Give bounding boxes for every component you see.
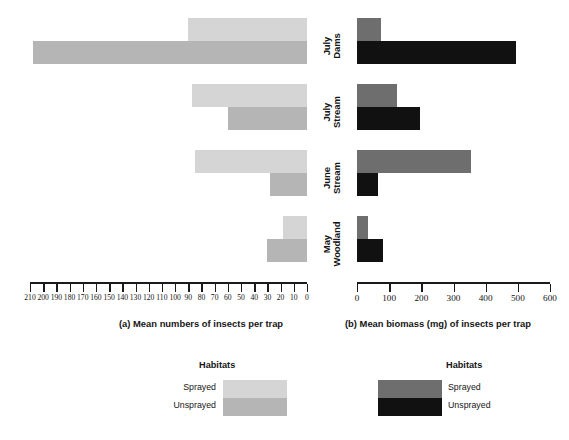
axis-tick-label: 140 — [117, 293, 128, 302]
axis-tick — [109, 284, 110, 292]
axis-tick-label: 0 — [305, 293, 309, 302]
category-axis-labels: July Dams July Stream June Stream May Wo… — [307, 10, 357, 272]
bar-panel-a-july-dams-unsprayed — [33, 41, 307, 64]
axis-tick — [136, 284, 137, 292]
category-label-june-stream: June Stream — [307, 150, 357, 206]
x-axis-panel-b: 0100200300400500600 — [357, 282, 550, 306]
axis-tick — [454, 284, 455, 292]
bar-panel-a-july-stream-unsprayed — [228, 107, 307, 130]
axis-tick-label: 150 — [103, 293, 114, 302]
axis-tick-label: 90 — [184, 293, 192, 302]
axis-tick — [518, 284, 519, 292]
axis-tick — [357, 284, 358, 292]
axis-tick — [486, 284, 487, 292]
bar-panel-a-may-woodland-sprayed — [283, 216, 307, 239]
plot-area-panel-b — [357, 10, 550, 272]
bar-panel-a-june-stream-unsprayed — [270, 173, 307, 196]
caption-panel-a: (a) Mean numbers of insects per trap — [119, 318, 283, 329]
axis-tick-label: 80 — [198, 293, 206, 302]
axis-tick-label: 200 — [37, 293, 48, 302]
bar-panel-b-july-stream-unsprayed — [357, 107, 420, 130]
axis-tick — [149, 284, 150, 292]
axis-tick-label: 500 — [511, 293, 525, 303]
axis-tick-label: 40 — [250, 293, 258, 302]
axis-tick-label: 10 — [290, 293, 298, 302]
plot-area-panel-a — [30, 10, 307, 272]
axis-tick — [162, 284, 163, 292]
axis-tick-label: 180 — [64, 293, 75, 302]
category-label-july-dams: July Dams — [307, 18, 357, 74]
axis-tick-label: 100 — [169, 293, 180, 302]
axis-tick-label: 600 — [543, 293, 557, 303]
axis-tick — [215, 284, 216, 292]
category-label-line-2: Woodland — [331, 222, 342, 267]
axis-tick — [30, 284, 31, 292]
axis-tick-label: 170 — [77, 293, 88, 302]
axis-tick — [254, 284, 255, 292]
axis-tick — [56, 284, 57, 292]
bar-panel-a-may-woodland-unsprayed — [267, 239, 307, 262]
legend-swatches — [378, 380, 442, 416]
bar-panel-b-may-woodland-sprayed — [357, 216, 368, 239]
axis-tick — [307, 284, 308, 292]
bar-panel-a-july-dams-sprayed — [188, 18, 307, 41]
category-label-july-stream: July Stream — [307, 84, 357, 140]
axis-tick-label: 0 — [355, 293, 360, 303]
axis-tick-label: 50 — [237, 293, 245, 302]
axis-tick — [96, 284, 97, 292]
axis-tick-label: 20 — [277, 293, 285, 302]
axis-tick-label: 30 — [264, 293, 272, 302]
bar-panel-b-june-stream-unsprayed — [357, 173, 378, 196]
bar-panel-b-july-dams-unsprayed — [357, 41, 516, 64]
bar-group-july-dams — [357, 18, 550, 74]
legend-label-sprayed: Sprayed — [183, 382, 216, 392]
chart-figure: July Dams July Stream June Stream May Wo… — [0, 0, 569, 440]
bar-panel-b-july-stream-sprayed — [357, 84, 397, 107]
bar-group-july-dams — [30, 18, 307, 74]
bar-panel-b-may-woodland-unsprayed — [357, 239, 383, 262]
legend-title: Habitats — [446, 360, 482, 370]
axis-tick — [188, 284, 189, 292]
axis-tick — [294, 284, 295, 292]
legend-label-unsprayed: Unsprayed — [448, 400, 491, 410]
axis-tick — [83, 284, 84, 292]
legend-swatch-unsprayed — [378, 398, 442, 416]
legend-label-sprayed: Sprayed — [448, 382, 481, 392]
axis-tick-label: 60 — [224, 293, 232, 302]
x-axis-panel-a: 2102001901801701601501401301201101009080… — [30, 282, 307, 306]
category-label-line-2: Dams — [331, 33, 342, 58]
legend-swatch-unsprayed — [223, 398, 287, 416]
bar-panel-b-july-dams-sprayed — [357, 18, 381, 41]
axis-tick — [267, 284, 268, 292]
legend-panel-b: Habitats Sprayed Unsprayed — [378, 360, 548, 420]
axis-tick-label: 110 — [156, 293, 167, 302]
legend-swatch-sprayed — [223, 380, 287, 398]
axis-tick-label: 100 — [382, 293, 396, 303]
legend-swatch-sprayed — [378, 380, 442, 398]
bar-group-june-stream — [30, 150, 307, 206]
axis-tick-label: 200 — [414, 293, 428, 303]
category-label-may-woodland: May Woodland — [307, 216, 357, 272]
legend-panel-a: Habitats Sprayed Unsprayed — [150, 360, 320, 420]
axis-line — [30, 282, 307, 284]
bar-group-july-stream — [30, 84, 307, 140]
bar-group-july-stream — [357, 84, 550, 140]
legend-title: Habitats — [199, 360, 235, 370]
axis-tick-label: 190 — [51, 293, 62, 302]
legend-label-unsprayed: Unsprayed — [173, 400, 216, 410]
axis-tick-label: 120 — [143, 293, 154, 302]
axis-tick — [228, 284, 229, 292]
bar-group-may-woodland — [357, 216, 550, 272]
category-label-line-2: Stream — [331, 96, 342, 128]
axis-tick — [175, 284, 176, 292]
axis-tick — [281, 284, 282, 292]
bar-group-june-stream — [357, 150, 550, 206]
axis-tick-label: 130 — [130, 293, 141, 302]
category-label-line-2: Stream — [331, 162, 342, 194]
bar-panel-a-july-stream-sprayed — [192, 84, 307, 107]
axis-tick — [389, 284, 390, 292]
bar-group-may-woodland — [30, 216, 307, 272]
axis-tick — [43, 284, 44, 292]
legend-swatches — [223, 380, 287, 416]
axis-tick-label: 300 — [447, 293, 461, 303]
